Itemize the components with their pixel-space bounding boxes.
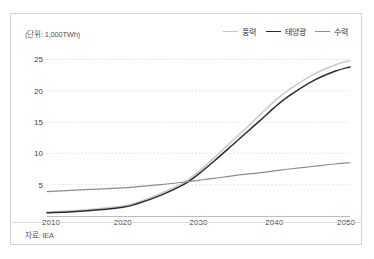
legend-label-0: 풍력 bbox=[242, 26, 256, 37]
unit-label: (단위: 1,000TWh) bbox=[25, 28, 80, 39]
legend-label-2: 수력 bbox=[334, 26, 348, 37]
legend-item-1: 태양광 bbox=[266, 26, 305, 37]
y-tick-label-1: 10 bbox=[34, 149, 43, 158]
chart-legend: 풍력태양광수력 bbox=[223, 26, 348, 37]
x-axis-line bbox=[47, 216, 350, 217]
x-axis: 20102020203020402050 bbox=[47, 218, 350, 232]
legend-item-2: 수력 bbox=[315, 26, 348, 37]
legend-item-0: 풍력 bbox=[223, 26, 256, 37]
y-tick-label-4: 25 bbox=[34, 55, 43, 64]
legend-swatch-2 bbox=[315, 31, 330, 32]
y-tick-label-0: 5 bbox=[39, 180, 43, 189]
y-tick-label-2: 15 bbox=[34, 118, 43, 127]
legend-label-1: 태양광 bbox=[285, 26, 305, 37]
plot-svg bbox=[47, 50, 350, 216]
legend-swatch-0 bbox=[223, 31, 238, 32]
series-line-2 bbox=[47, 163, 350, 192]
legend-swatch-1 bbox=[266, 31, 281, 32]
y-tick-label-3: 20 bbox=[34, 86, 43, 95]
series-line-1 bbox=[47, 67, 350, 213]
chart-card: (단위: 1,000TWh) 풍력태양광수력 510152025 2010202… bbox=[10, 13, 362, 245]
footer-divider bbox=[11, 222, 361, 223]
source-note: 자료: IEA bbox=[25, 229, 54, 240]
y-axis: 510152025 bbox=[23, 50, 43, 216]
plot-area bbox=[47, 50, 350, 216]
